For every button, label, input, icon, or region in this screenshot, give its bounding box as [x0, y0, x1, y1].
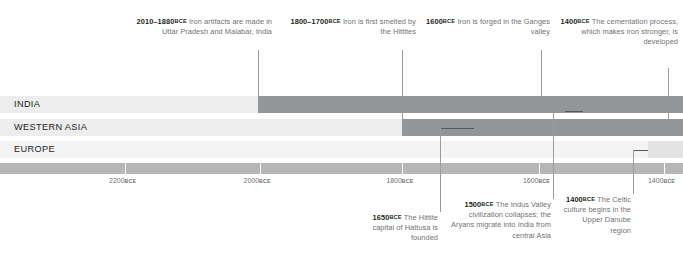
- leader-line-bottom-1-horizontal: [440, 128, 474, 129]
- annotation-bottom-2-year: 1500: [464, 200, 481, 209]
- annotation-top-1-year: 2010–1880: [137, 17, 175, 26]
- annotation-top-3-text: Iron is forged in the Ganges valley: [455, 17, 550, 36]
- annotation-top-3-year: 1600: [426, 17, 443, 26]
- annotation-top-4-year: 1400: [561, 17, 578, 26]
- timeline-row-europe: EUROPE: [0, 141, 683, 158]
- bar-marker-india: [565, 111, 583, 112]
- annotation-bottom-1-era: BCE: [389, 214, 401, 220]
- axis-tick-label-2000: 2000BCE: [244, 177, 271, 184]
- annotation-bottom-1: 1650BCE The Hittite capital of Hattusa i…: [355, 212, 438, 244]
- axis-tick-label-2200: 2200BCE: [109, 177, 136, 184]
- annotation-top-4: 1400BCE The cementation process, which m…: [552, 16, 678, 48]
- axis-tick-label-1400: 1400BCE: [648, 177, 675, 184]
- annotation-bottom-1-year: 1650: [373, 213, 390, 222]
- annotation-bottom-3: 1400BCE The Celtic culture begins in the…: [561, 194, 631, 236]
- row-label-europe: EUROPE: [14, 144, 55, 154]
- axis-tick-label-1600: 1600BCE: [523, 177, 550, 184]
- leader-line-bottom-3-horizontal: [633, 150, 648, 151]
- axis-tick-1800: [402, 163, 403, 174]
- row-base-europe: [0, 141, 683, 158]
- annotation-top-4-era: BCE: [577, 18, 589, 24]
- row-label-india: INDIA: [14, 99, 40, 109]
- annotation-top-4-text: The cementation process, which makes iro…: [581, 17, 678, 46]
- timeline-infographic: 2010–1880BCE Iron artifacts are made in …: [0, 0, 683, 255]
- leader-line-bottom-2: [553, 113, 554, 199]
- annotation-bottom-2-era: BCE: [481, 201, 493, 207]
- axis-tick-2200: [125, 163, 126, 174]
- leader-line-bottom-3-vertical: [633, 150, 634, 194]
- annotation-top-2: 1800–1700BCE Iron is first smelted by th…: [285, 16, 416, 37]
- leader-line-bottom-1-vertical: [440, 128, 441, 212]
- annotation-top-2-text: Iron is first smelted by the Hittites: [341, 17, 416, 36]
- timeline-row-western-asia: WESTERN ASIA: [0, 119, 683, 136]
- row-active-europe: [648, 141, 683, 158]
- annotation-top-3-era: BCE: [443, 18, 455, 24]
- annotation-top-2-year: 1800–1700: [290, 17, 328, 26]
- annotation-top-2-era: BCE: [328, 18, 340, 24]
- annotation-top-1: 2010–1880BCE Iron artifacts are made in …: [120, 16, 272, 37]
- annotation-bottom-2: 1500BCE The Indus Valley civilization co…: [448, 199, 551, 241]
- annotation-bottom-3-year: 1400: [566, 195, 583, 204]
- row-label-western-asia: WESTERN ASIA: [14, 122, 87, 132]
- annotation-bottom-3-era: BCE: [583, 196, 595, 202]
- axis-tick-label-1800: 1800BCE: [386, 177, 413, 184]
- axis-tick-1600: [539, 163, 540, 174]
- axis-bar: [0, 163, 683, 174]
- row-active-india: [258, 96, 683, 113]
- annotation-top-1-era: BCE: [174, 18, 186, 24]
- annotation-top-3: 1600BCE Iron is forged in the Ganges val…: [425, 16, 550, 37]
- axis-tick-1400: [664, 163, 665, 174]
- axis-tick-2000: [260, 163, 261, 174]
